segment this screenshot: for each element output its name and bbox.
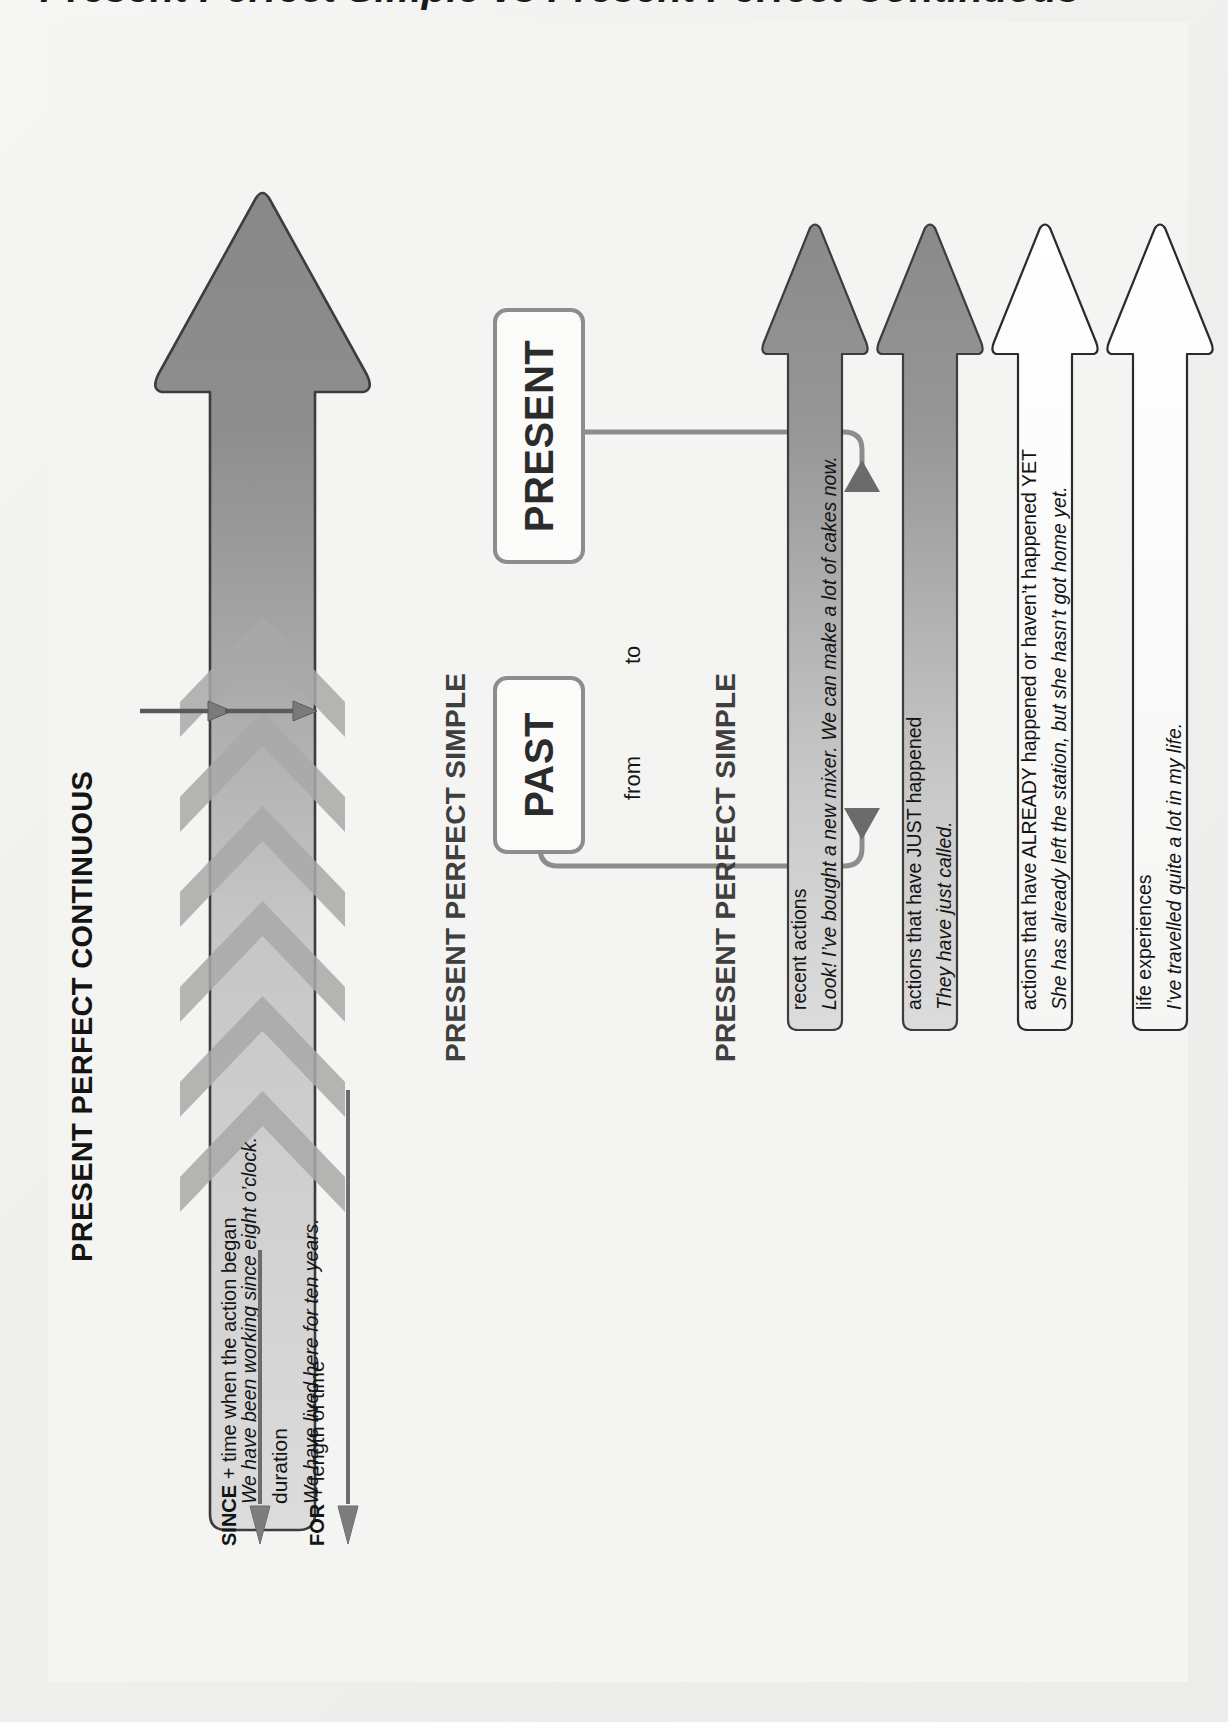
timeline-to-label: to xyxy=(620,646,646,664)
for-indicator-arrow xyxy=(225,700,317,722)
already-yet-arrow xyxy=(990,220,1100,1032)
continuous-line-2: duration xyxy=(268,1428,292,1504)
heading-present-perfect-simple: PRESENT PERFECT SIMPLE xyxy=(710,673,742,1062)
just-happened-arrow xyxy=(875,220,985,1032)
for-note-rest: + length of time xyxy=(306,1361,328,1504)
since-keyword: SINCE xyxy=(218,1485,240,1546)
just-happened-title: actions that have JUST happened xyxy=(903,717,926,1010)
heading-present-perfect-continuous: PRESENT PERFECT CONTINUOUS xyxy=(66,771,99,1262)
just-happened-example: They have just called. xyxy=(933,821,956,1010)
since-note: SINCE + time when the action began xyxy=(218,1217,241,1546)
life-experiences-example: I’ve travelled quite a lot in my life. xyxy=(1163,723,1186,1010)
recent-actions-example: Look! I’ve bought a new mixer. We can ma… xyxy=(818,456,841,1010)
life-experiences-arrow xyxy=(1105,220,1215,1032)
page-background: Present Perfect Simple vs Present Perfec… xyxy=(0,0,1228,1722)
for-keyword: FOR xyxy=(306,1504,328,1546)
diagram-stage: PRESENT PERFECT CONTINUOUS We have been … xyxy=(0,0,1228,1722)
since-note-rest: + time when the action began xyxy=(218,1217,240,1484)
recent-actions-title: recent actions xyxy=(788,889,811,1010)
since-indicator-arrow xyxy=(140,700,232,722)
already-yet-title: actions that have ALREADY happened or ha… xyxy=(1018,449,1041,1010)
for-note: FOR + length of time xyxy=(306,1361,329,1546)
past-box: PAST xyxy=(493,676,585,854)
since-leader-line xyxy=(250,1250,270,1550)
timeline-from-label: from xyxy=(620,756,646,800)
already-yet-example: She has already left the station, but sh… xyxy=(1048,486,1071,1010)
for-leader-line xyxy=(338,1090,358,1550)
recent-actions-arrow xyxy=(760,220,870,1032)
heading-timeline-present-perfect-simple: PRESENT PERFECT SIMPLE xyxy=(440,673,472,1062)
present-box: PRESENT xyxy=(493,308,585,564)
life-experiences-title: life experiences xyxy=(1133,875,1156,1011)
